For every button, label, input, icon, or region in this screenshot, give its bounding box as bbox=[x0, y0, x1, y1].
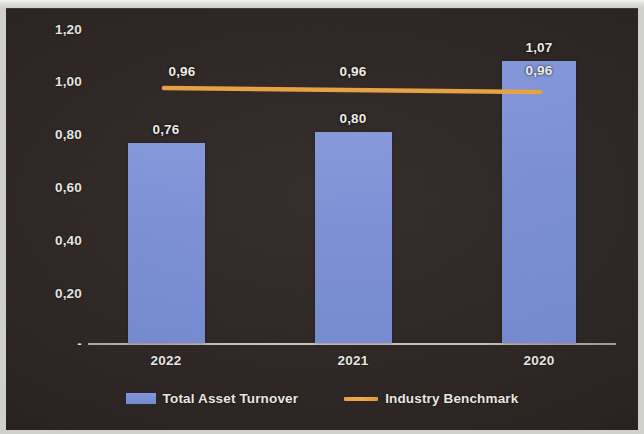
benchmark-value-label-2020: 0,96 bbox=[525, 63, 552, 78]
x-axis-label-2021: 2021 bbox=[337, 353, 368, 368]
bar-2021[interactable] bbox=[315, 132, 392, 343]
bar-value-label-2021: 0,80 bbox=[339, 111, 366, 126]
y-axis: 1,20 1,00 0,80 0,60 0,40 0,20 - bbox=[20, 8, 82, 430]
legend-bar-swatch-icon bbox=[126, 393, 156, 404]
bar-2020[interactable] bbox=[502, 61, 576, 343]
y-axis-tick-0-60: 0,60 bbox=[20, 180, 82, 195]
bar-value-label-2022: 0,76 bbox=[152, 122, 179, 137]
photographed-slide-frame: 1,20 1,00 0,80 0,60 0,40 0,20 - 0,76 0,8… bbox=[0, 0, 644, 434]
benchmark-value-label-2022: 0,96 bbox=[168, 64, 195, 79]
y-axis-tick-1-00: 1,00 bbox=[20, 74, 82, 89]
y-axis-tick-0-80: 0,80 bbox=[20, 127, 82, 142]
x-axis-label-2022: 2022 bbox=[150, 353, 181, 368]
legend-item-industry-benchmark[interactable]: Industry Benchmark bbox=[344, 391, 518, 406]
legend-item-total-asset-turnover[interactable]: Total Asset Turnover bbox=[126, 391, 299, 406]
chart-plot-area: 1,20 1,00 0,80 0,60 0,40 0,20 - 0,76 0,8… bbox=[6, 8, 638, 430]
y-axis-tick-1-20: 1,20 bbox=[20, 22, 82, 37]
benchmark-value-label-2021: 0,96 bbox=[339, 64, 366, 79]
y-axis-tick-zero: - bbox=[20, 336, 82, 351]
legend-label-industry-benchmark: Industry Benchmark bbox=[385, 391, 518, 406]
chart-slide: 1,20 1,00 0,80 0,60 0,40 0,20 - 0,76 0,8… bbox=[6, 8, 638, 430]
bar-2022[interactable] bbox=[128, 143, 205, 343]
legend-label-total-asset-turnover: Total Asset Turnover bbox=[163, 391, 299, 406]
y-axis-tick-0-20: 0,20 bbox=[20, 286, 82, 301]
x-axis-label-2020: 2020 bbox=[523, 353, 554, 368]
benchmark-line-segment bbox=[164, 88, 540, 92]
y-axis-tick-0-40: 0,40 bbox=[20, 233, 82, 248]
bar-value-label-2020: 1,07 bbox=[525, 40, 552, 55]
chart-legend: Total Asset Turnover Industry Benchmark bbox=[6, 391, 638, 406]
x-axis-baseline bbox=[88, 343, 616, 345]
legend-line-swatch-icon bbox=[344, 397, 378, 401]
photo-top-glare bbox=[0, 0, 644, 9]
